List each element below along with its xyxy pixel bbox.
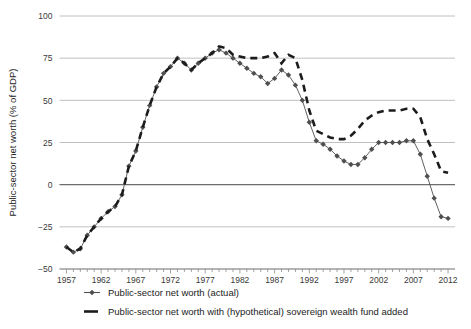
x-axis-tick-label: 2002 [369, 275, 388, 285]
series-line-actual [66, 50, 448, 252]
y-axis-tick-labels: −50−250255075100 [38, 11, 53, 274]
data-point-marker [397, 140, 402, 145]
x-axis-tick-labels: 1957196219671972197719821987199219972002… [57, 275, 458, 285]
x-axis-tick-label: 1957 [57, 275, 76, 285]
y-axis-tick-label: 100 [38, 11, 52, 21]
y-axis-tick-label: 0 [48, 180, 53, 190]
y-axis-tick-label: −50 [38, 264, 53, 274]
data-point-marker [438, 214, 443, 219]
data-point-marker [425, 174, 430, 179]
x-axis-tick-label: 1962 [92, 275, 111, 285]
x-axis-tick-label: 1972 [161, 275, 180, 285]
chart-page: −50−250255075100 19571962196719721977198… [0, 0, 471, 329]
legend-marker-diamond-actual [89, 290, 95, 296]
legend-label-actual: Public-sector net worth (actual) [108, 287, 239, 298]
x-axis-tick-label: 2012 [439, 275, 458, 285]
series-line-hypothetical [66, 46, 448, 252]
x-axis-tick-label: 1987 [265, 275, 284, 285]
data-point-marker [431, 195, 436, 200]
chart-legend: Public-sector net worth (actual)Public-s… [84, 287, 408, 317]
y-axis-tick-label: 75 [43, 53, 53, 63]
axis-tickmarks [66, 269, 448, 274]
data-point-marker [348, 162, 353, 167]
y-axis-title: Public-sector net worth (% of GDP) [7, 69, 18, 217]
y-axis-tick-label: 50 [43, 96, 53, 106]
data-point-marker [445, 216, 450, 221]
x-axis-tick-label: 2007 [404, 275, 423, 285]
data-point-marker [307, 120, 312, 125]
y-axis-tick-label: 25 [43, 138, 53, 148]
x-axis-tick-label: 1982 [230, 275, 249, 285]
data-point-marker [293, 82, 298, 87]
data-point-marker [390, 140, 395, 145]
series-markers-actual [64, 47, 451, 255]
x-axis-tick-label: 1977 [196, 275, 215, 285]
data-point-marker [383, 140, 388, 145]
legend-label-hypothetical: Public-sector net worth with (hypothetic… [108, 306, 408, 317]
x-axis-tick-label: 1967 [126, 275, 145, 285]
x-axis-tick-label: 1992 [300, 275, 319, 285]
data-point-marker [300, 98, 305, 103]
data-series [64, 46, 451, 254]
data-point-marker [418, 152, 423, 157]
y-axis-tick-label: −25 [38, 222, 53, 232]
x-axis-tick-label: 1997 [335, 275, 354, 285]
y-axis-title-text: Public-sector net worth (% of GDP) [7, 69, 18, 217]
chart-canvas: −50−250255075100 19571962196719721977198… [0, 0, 471, 329]
